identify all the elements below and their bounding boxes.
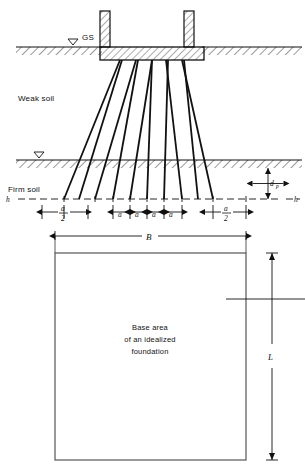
a2l-denominator: 2 [61, 214, 65, 223]
pile-cap-body [100, 47, 204, 60]
a1-label: a [118, 210, 122, 219]
plan-length-label: L [267, 352, 273, 362]
section-width-label: B [146, 232, 152, 242]
foundation-pile-diagram: GS Weak soil Firm soil h h [0, 0, 305, 469]
spacing-dimension-row: a 2 a a a a a 2 [42, 204, 248, 223]
a2r-denominator: 2 [224, 214, 228, 223]
pile-batter-7 [182, 60, 213, 199]
base-area-caption-line1: Base area [132, 323, 169, 332]
a2-label: a [135, 210, 139, 219]
base-area-caption-line3: foundation [131, 347, 168, 356]
L-arrow-top [269, 253, 275, 260]
base-area-caption-line2: of an idealized [124, 335, 175, 344]
a3-label: a [152, 210, 156, 219]
spacing-a-2: a [130, 210, 147, 219]
pile-batter-1 [64, 60, 120, 199]
base-area-rectangle [55, 253, 246, 460]
spacing-a-3: a [147, 210, 164, 219]
spacing-a-over-2-left: a 2 [42, 204, 86, 223]
pile-group [64, 60, 213, 199]
a2l-numerator: a [61, 204, 65, 213]
ground-hatch-left [16, 47, 102, 55]
embedment-depth-dimension: d p [253, 168, 284, 199]
firm-soil-level-marker-icon [34, 152, 44, 158]
figure-container: GS Weak soil Firm soil h h [0, 0, 305, 469]
dp-label: d [270, 179, 274, 188]
a4-label: a [169, 210, 173, 219]
pile-batter-4 [113, 60, 138, 199]
column-right [184, 11, 194, 47]
a2r-numerator: a [224, 204, 228, 213]
column-left [100, 11, 110, 47]
pile-vertical-right [164, 60, 168, 199]
spacing-a-over-2-right: a 2 [205, 204, 248, 223]
spacing-a-1: a [113, 210, 130, 219]
dp-label-subscript: p [275, 183, 279, 189]
spacing-a-4: a [164, 210, 182, 219]
ground-hatch-right [202, 47, 302, 55]
pile-batter-5 [166, 60, 182, 199]
firm-soil-stratum [16, 160, 302, 168]
h-label-left: h [6, 195, 10, 204]
ground-surface-marker-icon [68, 39, 78, 45]
section-width-dimension: B [55, 229, 246, 242]
ground-surface-label: GS [82, 33, 94, 42]
h-label-right: h [294, 195, 298, 204]
weak-soil-label: Weak soil [18, 94, 54, 103]
L-arrow-bottom [269, 453, 275, 460]
firm-soil-hatch [16, 160, 302, 168]
footing-pile-cap [100, 11, 204, 60]
firm-soil-label: Firm soil [8, 185, 40, 194]
